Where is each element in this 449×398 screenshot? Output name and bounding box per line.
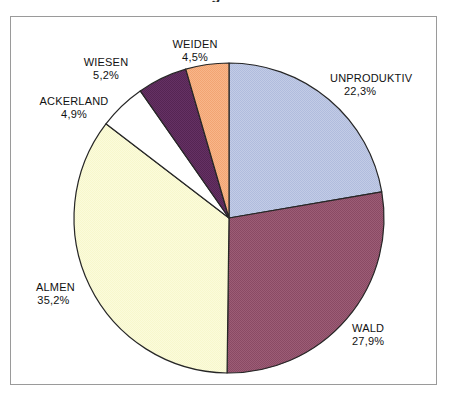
pie-label-unproduktiv: UNPRODUKTIV 22,3% [330,72,412,98]
pie-chart-screenshot: Bodennutzung in der Schweiz [0,0,449,398]
pie-label-ackerland-value: 4,9% [22,108,126,121]
pie-label-weiden-value: 4,5% [152,51,238,64]
pie-label-unproduktiv-name: UNPRODUKTIV [330,72,412,85]
pie-label-weiden-name: WEIDEN [152,38,238,51]
pie-label-almen: ALMEN 35,2% [36,281,75,307]
pie-label-ackerland-name: ACKERLAND [22,95,126,108]
pie-label-almen-value: 35,2% [36,294,75,307]
pie-label-ackerland: ACKERLAND 4,9% [22,95,126,121]
pie-label-wiesen-name: WIESEN [66,56,146,69]
pie-label-wald: WALD 27,9% [352,322,384,348]
pie-label-unproduktiv-value: 22,3% [330,85,412,98]
pie-label-wald-name: WALD [352,322,384,335]
pie-label-wiesen: WIESEN 5,2% [66,56,146,82]
pie-label-wiesen-value: 5,2% [66,69,146,82]
pie-label-almen-name: ALMEN [36,281,75,294]
pie-label-weiden: WEIDEN 4,5% [152,38,238,64]
pie-label-wald-value: 27,9% [352,335,384,348]
